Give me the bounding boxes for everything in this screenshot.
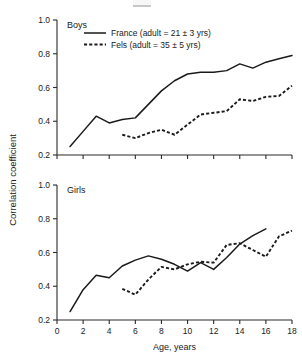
y-tick-label-0.4: 0.4 xyxy=(38,116,50,126)
y-tick-label-0.8: 0.8 xyxy=(38,214,50,224)
x-axis-title: Age, years xyxy=(153,342,197,352)
series-fels-girls xyxy=(122,231,292,295)
x-tick-label-10: 10 xyxy=(183,326,193,336)
legend: France (adult = 21 ± 3 yrs)Fels (adult =… xyxy=(84,28,211,50)
series-fels-boys xyxy=(122,86,292,138)
x-tick-label-8: 8 xyxy=(159,326,164,336)
y-tick-label-0.2: 0.2 xyxy=(38,150,50,160)
cropped-title-fragment xyxy=(133,0,151,7)
y-axis-title-group: Correlation coefficient xyxy=(7,134,18,226)
x-tick-label-6: 6 xyxy=(133,326,138,336)
y-tick-label-0.2: 0.2 xyxy=(38,315,50,325)
y-tick-label-0.6: 0.6 xyxy=(38,83,50,93)
y-axis-title: Correlation coefficient xyxy=(7,134,18,226)
x-tick-label-4: 4 xyxy=(107,326,112,336)
y-tick-label-0.4: 0.4 xyxy=(38,281,50,291)
figure-correlation-coefficient-by-age: 0.20.40.60.81.0Boys0.20.40.60.81.0024681… xyxy=(0,0,302,362)
x-tick-label-18: 18 xyxy=(287,326,297,336)
panel-title-girls: Girls xyxy=(67,185,86,195)
series-france-girls xyxy=(70,229,266,312)
legend-label-fels: Fels (adult = 35 ± 5 yrs) xyxy=(111,40,201,50)
x-tick-label-12: 12 xyxy=(209,326,219,336)
y-tick-label-1.0: 1.0 xyxy=(38,180,50,190)
y-tick-label-0.8: 0.8 xyxy=(38,49,50,59)
x-tick-label-0: 0 xyxy=(55,326,60,336)
series-france-boys xyxy=(70,55,292,146)
chart-canvas: 0.20.40.60.81.0Boys0.20.40.60.81.0024681… xyxy=(0,0,302,362)
panel-girls: 0.20.40.60.81.0024681012141618GirlsAge, … xyxy=(38,180,297,352)
x-tick-label-16: 16 xyxy=(261,326,271,336)
x-tick-label-14: 14 xyxy=(235,326,245,336)
y-tick-label-0.6: 0.6 xyxy=(38,248,50,258)
x-tick-label-2: 2 xyxy=(81,326,86,336)
panel-title-boys: Boys xyxy=(67,20,88,30)
legend-label-france: France (adult = 21 ± 3 yrs) xyxy=(111,28,211,38)
y-tick-label-1.0: 1.0 xyxy=(38,15,50,25)
